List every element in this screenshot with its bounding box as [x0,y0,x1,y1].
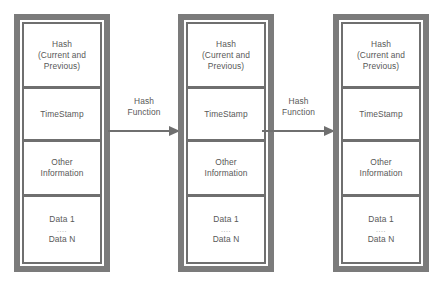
arrow-right-icon [108,126,180,136]
hash-cell[interactable]: Hash (Current and Previous) [188,24,264,86]
timestamp-cell[interactable]: TimeStamp [343,89,419,139]
blockchain-block-2[interactable]: Hash (Current and Previous) TimeStamp Ot… [178,14,274,272]
block-body: Hash (Current and Previous) TimeStamp Ot… [341,22,421,264]
hash-cell-line-3: Previous) [208,61,244,72]
connector-2-label: Hash Function [262,96,335,118]
timestamp-cell-line-1: TimeStamp [359,109,402,120]
data-cell-line-3: Data N [213,234,240,245]
block-frame-gap: Hash (Current and Previous) TimeStamp Ot… [184,20,268,266]
hash-cell-line-2: (Current and [357,50,405,61]
data-cell-line-1: Data 1 [368,214,393,225]
other-information-cell[interactable]: Other Information [343,142,419,194]
hash-cell-line-1: Hash [52,39,72,50]
block-frame-gap: Hash (Current and Previous) TimeStamp Ot… [339,20,423,266]
data-cell-line-1: Data 1 [49,214,74,225]
block-body: Hash (Current and Previous) TimeStamp Ot… [22,22,102,264]
timestamp-cell[interactable]: TimeStamp [24,89,100,139]
hash-cell[interactable]: Hash (Current and Previous) [343,24,419,86]
connector-1-label: Hash Function [108,96,180,118]
arrow-right-icon [262,126,335,136]
connector-1-label-line-2: Function [108,107,180,118]
other-information-cell-line-1: Other [215,157,236,168]
arrow-shaft [108,130,170,132]
connector-2-label-line-2: Function [262,107,335,118]
hash-cell-line-1: Hash [216,39,236,50]
data-cell-line-3: Data N [368,234,395,245]
hash-cell-line-2: (Current and [38,50,86,61]
connector-1-label-line-1: Hash [108,96,180,107]
timestamp-cell[interactable]: TimeStamp [188,89,264,139]
data-cell[interactable]: Data 1 .... Data N [188,197,264,262]
block-body: Hash (Current and Previous) TimeStamp Ot… [186,22,266,264]
data-cell[interactable]: Data 1 .... Data N [343,197,419,262]
block-frame-gap: Hash (Current and Previous) TimeStamp Ot… [20,20,104,266]
blockchain-block-1[interactable]: Hash (Current and Previous) TimeStamp Ot… [14,14,110,272]
data-cell[interactable]: Data 1 .... Data N [24,197,100,262]
timestamp-cell-line-1: TimeStamp [204,109,247,120]
data-cell-line-3: Data N [49,234,76,245]
data-cell-ellipsis: .... [57,225,67,234]
hash-cell[interactable]: Hash (Current and Previous) [24,24,100,86]
data-cell-line-1: Data 1 [213,214,238,225]
data-cell-ellipsis: .... [376,225,386,234]
other-information-cell-line-2: Information [205,168,248,179]
other-information-cell[interactable]: Other Information [24,142,100,194]
data-cell-ellipsis: .... [221,225,231,234]
arrow-shaft [262,130,325,132]
connector-2-label-line-1: Hash [262,96,335,107]
other-information-cell-line-2: Information [360,168,403,179]
blockchain-block-3[interactable]: Hash (Current and Previous) TimeStamp Ot… [333,14,429,272]
other-information-cell[interactable]: Other Information [188,142,264,194]
other-information-cell-line-1: Other [51,157,72,168]
timestamp-cell-line-1: TimeStamp [40,109,83,120]
other-information-cell-line-1: Other [370,157,391,168]
hash-cell-line-2: (Current and [202,50,250,61]
connector-2: Hash Function [262,96,335,142]
hash-cell-line-3: Previous) [44,61,80,72]
other-information-cell-line-2: Information [41,168,84,179]
hash-cell-line-1: Hash [371,39,391,50]
connector-1: Hash Function [108,96,180,142]
blockchain-diagram: Hash (Current and Previous) TimeStamp Ot… [0,0,440,283]
hash-cell-line-3: Previous) [363,61,399,72]
